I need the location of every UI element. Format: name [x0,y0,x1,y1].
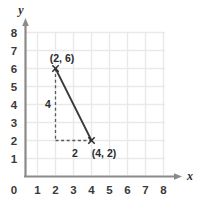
origin-tick-label: 0 [11,184,17,196]
point-label-2-6: (2, 6) [50,52,75,64]
x-tick-label: 7 [142,184,148,196]
x-tick-label: 4 [88,184,95,196]
y-tick-label: 5 [11,81,18,93]
x-tick-label: 5 [106,184,113,196]
x-axis-arrowhead [174,173,182,180]
x-tick-label: 8 [160,184,167,196]
horizontal-leg-length-label: 2 [72,147,78,159]
y-axis-arrowhead [22,18,29,26]
y-tick-label: 1 [11,153,18,165]
x-tick-label: 2 [52,184,58,196]
y-tick-label: 7 [11,45,17,57]
vertical-leg-length-label: 4 [45,98,51,110]
y-tick-label: 8 [11,27,18,39]
grid-horizontal-lines [25,33,165,159]
y-tick-label: 4 [11,99,18,111]
coordinate-plane-figure: y x 0 1 2 3 4 5 6 7 8 1 2 3 4 5 6 7 8 [0,0,200,211]
graph-canvas: y x 0 1 2 3 4 5 6 7 8 1 2 3 4 5 6 7 8 [0,0,200,211]
y-tick-label: 2 [11,135,17,147]
x-tick-label: 3 [70,184,76,196]
y-axis-label: y [16,3,24,17]
y-tick-label: 3 [11,117,17,129]
y-tick-label: 6 [11,63,17,75]
x-tick-label: 1 [34,184,41,196]
x-axis-label: x [186,169,193,183]
point-label-4-2: (4, 2) [92,147,117,159]
x-tick-label: 6 [124,184,130,196]
